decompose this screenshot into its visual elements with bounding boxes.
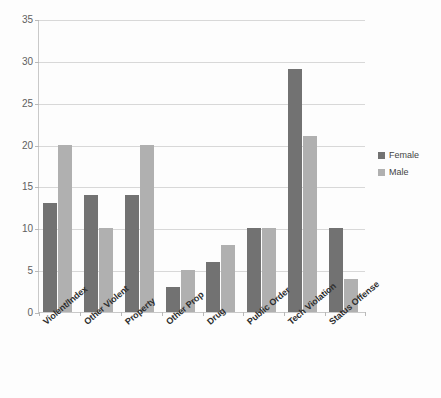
bar-group bbox=[325, 20, 366, 312]
y-axis-tick-label: 25 bbox=[22, 99, 33, 109]
bar-female bbox=[166, 287, 180, 312]
bar-male bbox=[221, 245, 235, 312]
legend-swatch-icon bbox=[378, 152, 385, 159]
x-axis-tick-mark bbox=[39, 312, 40, 316]
x-axis-tick-mark bbox=[80, 312, 81, 316]
bar-female bbox=[125, 195, 139, 312]
x-axis-tick-mark bbox=[162, 312, 163, 316]
y-axis-tick-label: 35 bbox=[22, 15, 33, 25]
legend-item-female[interactable]: Female bbox=[378, 147, 438, 164]
bar-group bbox=[284, 20, 325, 312]
bar-female bbox=[247, 228, 261, 312]
x-axis-tick-mark bbox=[284, 312, 285, 316]
y-axis-tick-label: 10 bbox=[22, 224, 33, 234]
x-axis-tick-mark bbox=[203, 312, 204, 316]
bar-female bbox=[84, 195, 98, 312]
bar-group bbox=[121, 20, 162, 312]
x-axis-tick-mark bbox=[325, 312, 326, 316]
bar-female bbox=[288, 69, 302, 312]
y-axis-tick-label: 5 bbox=[27, 266, 33, 276]
y-axis-tick-label: 30 bbox=[22, 57, 33, 67]
bar-male bbox=[99, 228, 113, 312]
legend-swatch-icon bbox=[378, 169, 385, 176]
bar-group bbox=[203, 20, 244, 312]
bar-male bbox=[344, 279, 358, 312]
plot-area bbox=[38, 20, 365, 313]
bar-male bbox=[58, 145, 72, 312]
x-axis-tick-mark bbox=[121, 312, 122, 316]
bar-female bbox=[43, 203, 57, 312]
bar-female bbox=[329, 228, 343, 312]
y-axis: 05101520253035 bbox=[0, 0, 33, 398]
legend: FemaleMale bbox=[378, 147, 438, 181]
bar-male bbox=[262, 228, 276, 312]
x-axis-tick-mark bbox=[365, 312, 366, 316]
y-axis-tick-label: 15 bbox=[22, 182, 33, 192]
y-axis-tick-label: 20 bbox=[22, 141, 33, 151]
bar-male bbox=[181, 270, 195, 312]
bar-male bbox=[303, 136, 317, 312]
bar-group bbox=[80, 20, 121, 312]
bar-male bbox=[140, 145, 154, 312]
bar-group bbox=[243, 20, 284, 312]
bar-group bbox=[39, 20, 80, 312]
bar-female bbox=[206, 262, 220, 312]
x-axis-tick-mark bbox=[243, 312, 244, 316]
bar-chart: 05101520253035 Violent/IndexOther Violen… bbox=[0, 0, 441, 398]
legend-item-male[interactable]: Male bbox=[378, 164, 438, 181]
legend-label: Female bbox=[389, 151, 419, 160]
y-axis-tick-label: 0 bbox=[27, 308, 33, 318]
legend-label: Male bbox=[389, 168, 409, 177]
bar-group bbox=[162, 20, 203, 312]
